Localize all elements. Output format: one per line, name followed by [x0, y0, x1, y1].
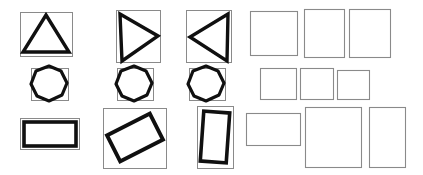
bounding-box-rectangle-rotated: [104, 109, 167, 169]
extracted-box-2-1: [261, 69, 297, 100]
extracted-box-3-2: [306, 108, 362, 168]
extracted-box-2-3: [338, 71, 370, 100]
extracted-box-1-1: [251, 12, 298, 56]
rectangle-landscape-shape: [24, 122, 76, 146]
extracted-box-3-3: [370, 108, 406, 168]
triangle-left-shape: [190, 14, 228, 61]
extracted-boxes-panel: [247, 10, 406, 168]
shape-cell-circle-1: [31, 66, 69, 101]
extracted-box-row-1: [251, 10, 391, 58]
shape-cell-circle-2: [116, 66, 154, 101]
figure-canvas: [0, 0, 423, 175]
shape-detection-figure: [0, 0, 423, 175]
extracted-box-row-2: [261, 69, 370, 100]
extracted-box-1-3: [350, 10, 391, 58]
shape-cell-rectangle-landscape: [21, 119, 80, 150]
circle-1-shape: [31, 66, 67, 101]
shape-cell-circle-3: [188, 66, 226, 101]
rectangle-portrait-shape: [200, 111, 229, 163]
shape-cell-triangle-left: [187, 11, 232, 63]
triangle-up-shape: [23, 15, 69, 52]
shape-cell-triangle-up: [21, 13, 73, 57]
bounding-box-triangle-up: [21, 13, 73, 57]
triangle-right-shape: [120, 14, 158, 61]
extracted-box-2-2: [301, 69, 334, 100]
extracted-box-1-2: [305, 10, 345, 58]
extracted-box-row-3: [247, 108, 406, 168]
shape-cell-rectangle-portrait: [198, 107, 234, 169]
shape-cell-rectangle-rotated: [104, 109, 167, 169]
extracted-box-3-1: [247, 114, 301, 146]
detected-shapes-panel: [21, 11, 234, 169]
circle-3-shape: [188, 66, 224, 101]
shape-cell-triangle-right: [117, 11, 161, 63]
rectangle-rotated-shape: [107, 114, 163, 162]
circle-2-shape: [116, 66, 152, 101]
